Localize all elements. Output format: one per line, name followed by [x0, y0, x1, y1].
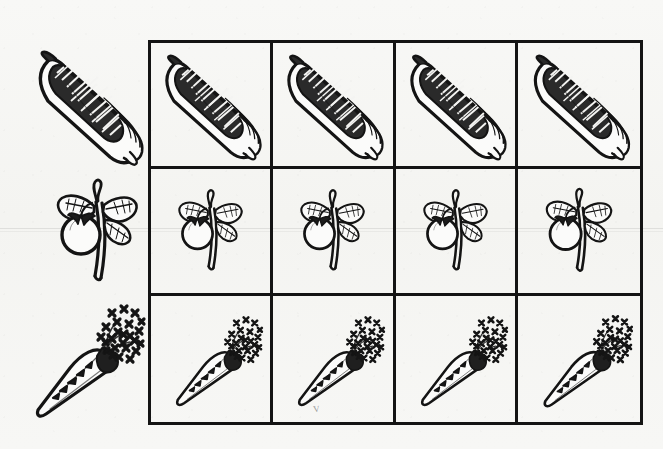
tomato-icon: [410, 173, 501, 288]
worksheet-page: Corn Tomato Carrot: [0, 0, 663, 449]
cell-art: [532, 173, 626, 288]
grid-cell-carrot-2[interactable]: [273, 296, 395, 422]
grid-cell-tomato-2[interactable]: [273, 169, 395, 295]
corn-icon: [26, 40, 150, 170]
reference-item-corn: Corn: [26, 40, 150, 170]
cell-art: [398, 45, 513, 164]
carrot-icon: [279, 299, 386, 419]
cell-art: [153, 45, 268, 164]
corn-icon: [520, 45, 638, 164]
grid-cell-carrot-3[interactable]: [396, 296, 518, 422]
corn-icon: [275, 45, 390, 164]
grid-cell-carrot-1[interactable]: [151, 296, 273, 422]
cell-art: [524, 299, 634, 419]
cell-art: [165, 173, 256, 288]
corn-icon: [153, 45, 268, 164]
reference-item-carrot: Carrot: [12, 296, 147, 421]
cell-art: [520, 45, 638, 164]
cell-art: [275, 45, 390, 164]
vegetable-grid: [148, 40, 643, 425]
grid-cell-corn-2[interactable]: [273, 43, 395, 169]
grid-cell-carrot-4[interactable]: [518, 296, 640, 422]
tomato-icon: [165, 173, 256, 288]
cell-art: [287, 173, 378, 288]
grid-cell-tomato-3[interactable]: [396, 169, 518, 295]
carrot-icon: [12, 296, 147, 421]
carrot-icon: [524, 299, 634, 419]
cell-art: [402, 299, 509, 419]
tomato-icon: [287, 173, 378, 288]
cell-art: [157, 299, 264, 419]
tomato-icon: [532, 173, 626, 288]
grid-cell-tomato-1[interactable]: [151, 169, 273, 295]
grid-cell-corn-3[interactable]: [396, 43, 518, 169]
tomato-icon: [40, 172, 155, 290]
cell-art: [279, 299, 386, 419]
carrot-icon: [157, 299, 264, 419]
cell-art: [410, 173, 501, 288]
carrot-icon: [402, 299, 509, 419]
grid-cell-tomato-4[interactable]: [518, 169, 640, 295]
grid-cell-corn-1[interactable]: [151, 43, 273, 169]
corn-icon: [398, 45, 513, 164]
reference-item-tomato: Tomato: [40, 172, 155, 290]
grid-cell-corn-4[interactable]: [518, 43, 640, 169]
